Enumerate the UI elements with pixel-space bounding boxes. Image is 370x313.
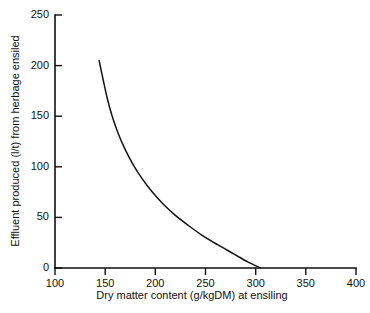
y-tick-label-250: 250 [31,8,49,20]
x-tick-label-350: 350 [297,277,315,289]
x-tick-label-250: 250 [196,277,214,289]
y-tick-label-100: 100 [31,160,49,172]
y-axis-title: Effluent produced (l/t) from herbage ens… [9,35,21,246]
x-axis-title: Dry matter content (g/kgDM) at ensiling [96,289,287,301]
effluent-vs-dry-matter-chart: 0 50 100 150 200 250 100 150 200 250 300… [0,0,370,313]
y-tick-label-50: 50 [37,210,49,222]
plot-area: 0 50 100 150 200 250 100 150 200 250 300… [31,8,366,289]
x-tick-label-400: 400 [347,277,365,289]
x-tick-label-150: 150 [96,277,114,289]
y-axis-tick-labels: 0 50 100 150 200 250 [31,8,49,273]
y-tick-label-150: 150 [31,109,49,121]
x-tick-label-300: 300 [247,277,265,289]
y-tick-label-200: 200 [31,59,49,71]
y-axis-ticks [55,15,62,268]
x-axis-ticks [55,268,356,275]
x-axis-tick-labels: 100 150 200 250 300 350 400 [46,277,365,289]
effluent-curve [99,61,261,268]
x-tick-label-100: 100 [46,277,64,289]
y-tick-label-0: 0 [43,261,49,273]
x-tick-label-200: 200 [146,277,164,289]
